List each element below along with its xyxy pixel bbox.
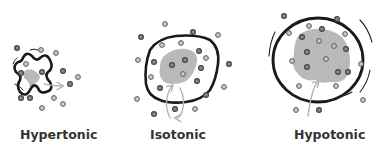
solute-particle bbox=[346, 70, 351, 75]
motion-line bbox=[30, 49, 38, 50]
solute-particle bbox=[324, 57, 329, 62]
cytoplasm bbox=[160, 49, 198, 84]
solute-particle bbox=[305, 65, 310, 70]
solute-particle bbox=[307, 24, 312, 29]
solute-particle bbox=[297, 84, 302, 89]
solute-particle bbox=[52, 96, 57, 101]
solute-particle bbox=[19, 71, 24, 76]
solute-particle bbox=[305, 50, 310, 55]
solute-particle bbox=[334, 84, 339, 89]
panel-hypotonic: Hypotonic bbox=[269, 14, 372, 142]
solute-particle bbox=[216, 33, 221, 38]
isotonic-cell bbox=[146, 36, 219, 119]
solute-particle bbox=[19, 96, 24, 101]
solute-particle bbox=[15, 46, 20, 51]
solute-particle bbox=[343, 32, 348, 37]
solute-particle bbox=[335, 17, 340, 22]
motion-line bbox=[360, 20, 372, 42]
solute-particle bbox=[152, 112, 157, 117]
solute-particle bbox=[336, 70, 341, 75]
solute-particle bbox=[282, 14, 287, 19]
cytoplasm bbox=[23, 69, 40, 87]
solute-particle bbox=[76, 75, 81, 80]
solute-particle bbox=[191, 30, 196, 35]
solute-particle bbox=[54, 51, 59, 56]
solute-particle bbox=[320, 27, 325, 32]
solute-particle bbox=[61, 69, 66, 74]
solute-particle bbox=[204, 93, 209, 98]
solute-particle bbox=[344, 47, 349, 52]
solute-particle bbox=[290, 59, 295, 64]
solute-particle bbox=[163, 22, 168, 27]
solute-particle bbox=[68, 82, 73, 87]
solute-particle bbox=[139, 35, 144, 40]
solute-particle bbox=[173, 107, 178, 112]
solute-particle bbox=[40, 106, 45, 111]
solute-particle bbox=[183, 58, 188, 63]
panel-hypertonic: Hypertonic bbox=[13, 46, 97, 142]
solute-particle bbox=[149, 75, 154, 80]
osmosis-diagram: Hypertonic bbox=[0, 0, 385, 150]
solute-particle bbox=[287, 31, 292, 36]
label-hypertonic: Hypertonic bbox=[20, 127, 97, 142]
solute-particle bbox=[136, 58, 141, 63]
solute-particle bbox=[135, 97, 140, 102]
solute-particle bbox=[24, 62, 29, 67]
solute-particle bbox=[317, 39, 322, 44]
solute-particle bbox=[28, 96, 33, 101]
solute-particle bbox=[197, 49, 202, 54]
solute-particle bbox=[40, 70, 45, 75]
solute-particle bbox=[61, 102, 66, 107]
solute-particle bbox=[359, 62, 364, 67]
solute-particle bbox=[300, 35, 305, 40]
label-hypotonic: Hypotonic bbox=[294, 127, 365, 142]
solute-particle bbox=[294, 108, 299, 113]
solute-particle bbox=[317, 108, 322, 113]
solute-particle bbox=[227, 62, 232, 67]
solute-particle bbox=[152, 60, 157, 65]
solute-particle bbox=[199, 66, 204, 71]
water-out-arrow bbox=[44, 84, 62, 86]
panel-isotonic: Isotonic bbox=[135, 22, 232, 142]
solute-particle bbox=[332, 44, 337, 49]
solute-particle bbox=[181, 72, 186, 77]
solute-particle bbox=[195, 79, 200, 84]
label-isotonic: Isotonic bbox=[150, 127, 206, 142]
solute-particle bbox=[179, 41, 184, 46]
solute-particle bbox=[158, 86, 163, 91]
solute-particle bbox=[193, 107, 198, 112]
solute-particle bbox=[39, 48, 44, 53]
solute-particle bbox=[204, 56, 209, 61]
solute-particle bbox=[170, 63, 175, 68]
solute-particle bbox=[160, 43, 165, 48]
solute-particle bbox=[361, 98, 366, 103]
hypotonic-cell bbox=[269, 18, 372, 116]
solute-particle bbox=[222, 85, 227, 90]
